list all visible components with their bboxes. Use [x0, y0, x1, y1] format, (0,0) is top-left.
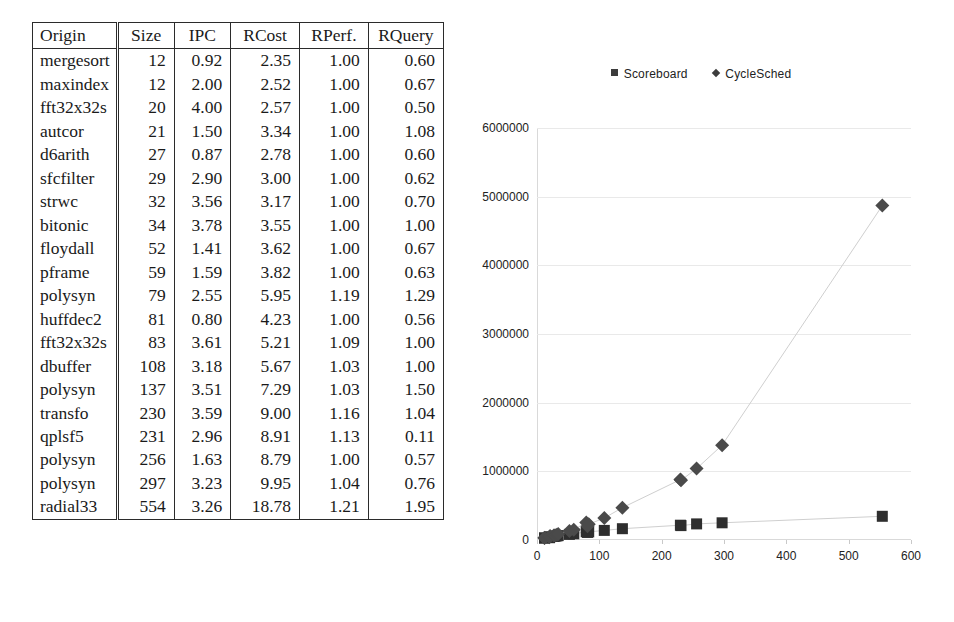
- table-header: Origin Size IPC RCost RPerf. RQuery: [33, 23, 444, 49]
- table-row: mergesort120.922.351.000.60: [33, 49, 444, 73]
- data-point-scoreboard: [676, 520, 687, 531]
- table-cell-rquery: 1.95: [368, 495, 443, 519]
- table-cell-ipc: 3.56: [174, 190, 230, 213]
- table-cell-origin: polysyn: [33, 448, 118, 471]
- legend-diamond-marker-icon: [712, 69, 720, 77]
- y-tick-label: 5000000: [482, 190, 529, 204]
- table-cell-ipc: 0.92: [174, 49, 230, 73]
- table-cell-ipc: 3.59: [174, 402, 230, 425]
- table-cell-rperf: 1.00: [300, 448, 369, 471]
- benchmark-table: Origin Size IPC RCost RPerf. RQuery merg…: [32, 22, 444, 520]
- plot-area: 0100000020000003000000400000050000006000…: [537, 128, 911, 540]
- table-cell-rperf: 1.00: [300, 73, 369, 96]
- x-tick-mark: [724, 540, 725, 544]
- table-cell-ipc: 3.61: [174, 331, 230, 354]
- table-cell-size: 108: [117, 355, 174, 378]
- table-cell-size: 52: [117, 237, 174, 260]
- table-cell-rquery: 1.04: [368, 402, 443, 425]
- table-cell-rquery: 0.57: [368, 448, 443, 471]
- data-point-cyclesched: [597, 511, 611, 525]
- table-cell-rquery: 1.08: [368, 120, 443, 143]
- table-cell-ipc: 3.18: [174, 355, 230, 378]
- table-cell-ipc: 3.51: [174, 378, 230, 401]
- table-cell-rcost: 7.29: [231, 378, 300, 401]
- data-point-scoreboard: [877, 511, 888, 522]
- table-row: polysyn792.555.951.191.29: [33, 284, 444, 307]
- table-cell-rquery: 1.00: [368, 331, 443, 354]
- table-cell-origin: polysyn: [33, 284, 118, 307]
- table-cell-origin: polysyn: [33, 472, 118, 495]
- x-tick-mark: [537, 540, 538, 544]
- table-cell-size: 231: [117, 425, 174, 448]
- table-cell-rquery: 1.00: [368, 214, 443, 237]
- table-row: pframe591.593.821.000.63: [33, 261, 444, 284]
- y-tick-label: 2000000: [482, 396, 529, 410]
- series-markers: [537, 128, 911, 540]
- table-cell-origin: autcor: [33, 120, 118, 143]
- table-row: transfo2303.599.001.161.04: [33, 402, 444, 425]
- table-cell-rquery: 0.60: [368, 49, 443, 73]
- column-header-rcost: RCost: [231, 23, 300, 49]
- table-row: polysyn2561.638.791.000.57: [33, 448, 444, 471]
- table-cell-ipc: 3.78: [174, 214, 230, 237]
- table-cell-rquery: 0.67: [368, 237, 443, 260]
- table-cell-rperf: 1.00: [300, 214, 369, 237]
- y-tick-label: 0: [522, 533, 529, 547]
- table-cell-origin: strwc: [33, 190, 118, 213]
- table-cell-rcost: 3.00: [231, 167, 300, 190]
- table-cell-size: 297: [117, 472, 174, 495]
- x-tick-label: 400: [776, 549, 796, 563]
- table-cell-rperf: 1.03: [300, 355, 369, 378]
- table-cell-rperf: 1.03: [300, 378, 369, 401]
- table-cell-rquery: 1.00: [368, 355, 443, 378]
- table-cell-origin: maxindex: [33, 73, 118, 96]
- column-header-ipc: IPC: [174, 23, 230, 49]
- table-row: polysyn2973.239.951.040.76: [33, 472, 444, 495]
- table-row: d6arith270.872.781.000.60: [33, 143, 444, 166]
- table-cell-rcost: 18.78: [231, 495, 300, 519]
- table-cell-rperf: 1.00: [300, 308, 369, 331]
- table-cell-rperf: 1.00: [300, 190, 369, 213]
- table-cell-origin: sfcfilter: [33, 167, 118, 190]
- table-cell-rquery: 0.50: [368, 96, 443, 119]
- y-tick-label: 4000000: [482, 258, 529, 272]
- table-cell-rperf: 1.00: [300, 237, 369, 260]
- table-header-row: Origin Size IPC RCost RPerf. RQuery: [33, 23, 444, 49]
- table-cell-size: 34: [117, 214, 174, 237]
- table-row: dbuffer1083.185.671.031.00: [33, 355, 444, 378]
- table-cell-rcost: 8.91: [231, 425, 300, 448]
- legend-entry-scoreboard: Scoreboard: [611, 66, 688, 81]
- table-cell-origin: fft32x32s: [33, 96, 118, 119]
- table-cell-origin: floydall: [33, 237, 118, 260]
- table-cell-rcost: 5.95: [231, 284, 300, 307]
- table-cell-origin: mergesort: [33, 49, 118, 73]
- table-cell-size: 59: [117, 261, 174, 284]
- legend-label-cyclesched: CycleSched: [725, 67, 791, 81]
- table-cell-rcost: 8.79: [231, 448, 300, 471]
- table-cell-rcost: 9.00: [231, 402, 300, 425]
- table-cell-size: 32: [117, 190, 174, 213]
- table-cell-rquery: 0.63: [368, 261, 443, 284]
- table-cell-ipc: 1.41: [174, 237, 230, 260]
- table-cell-size: 81: [117, 308, 174, 331]
- table-cell-ipc: 1.50: [174, 120, 230, 143]
- table-cell-rperf: 1.00: [300, 96, 369, 119]
- table-cell-rperf: 1.00: [300, 49, 369, 73]
- data-point-cyclesched: [615, 501, 629, 515]
- table-row: bitonic343.783.551.001.00: [33, 214, 444, 237]
- table-cell-ipc: 2.55: [174, 284, 230, 307]
- table-cell-size: 27: [117, 143, 174, 166]
- table-cell-origin: d6arith: [33, 143, 118, 166]
- data-point-cyclesched: [674, 473, 688, 487]
- x-tick-mark: [662, 540, 663, 544]
- table-cell-rperf: 1.09: [300, 331, 369, 354]
- table-cell-rcost: 2.52: [231, 73, 300, 96]
- table-cell-ipc: 0.87: [174, 143, 230, 166]
- table-cell-size: 79: [117, 284, 174, 307]
- table-cell-rcost: 5.21: [231, 331, 300, 354]
- table-cell-rperf: 1.00: [300, 120, 369, 143]
- table-cell-ipc: 2.90: [174, 167, 230, 190]
- table-cell-size: 12: [117, 49, 174, 73]
- table-cell-origin: polysyn: [33, 378, 118, 401]
- table-cell-origin: pframe: [33, 261, 118, 284]
